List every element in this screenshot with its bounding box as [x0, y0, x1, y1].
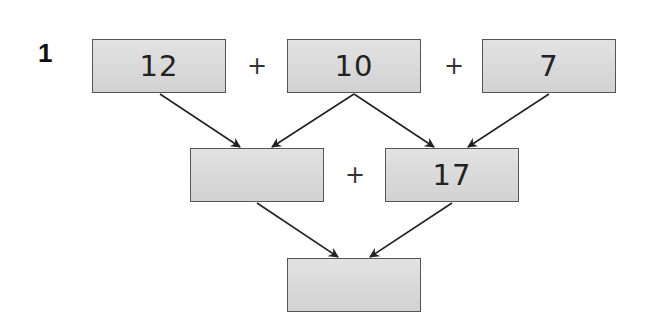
plus-sign-top-2: + [444, 52, 464, 80]
plus-sign-top-1: + [247, 52, 267, 80]
plus-sign-middle: + [345, 161, 365, 189]
middle-box-1-answer[interactable] [190, 148, 324, 202]
top-box-2: 10 [287, 39, 421, 93]
bottom-box-answer[interactable] [287, 258, 421, 312]
middle-box-2: 17 [385, 148, 519, 202]
top-box-3: 7 [482, 39, 616, 93]
top-box-1: 12 [92, 39, 226, 93]
